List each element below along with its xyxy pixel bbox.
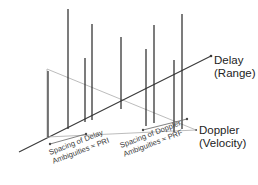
delay-label-line1: Delay xyxy=(214,54,244,66)
ambiguity-diagram: Delay (Range) Doppler (Velocity) Spacing… xyxy=(0,0,258,185)
delay-label-line2: (Range) xyxy=(214,67,256,79)
doppler-label-line1: Doppler xyxy=(199,124,239,136)
doppler-axis-label: Doppler (Velocity) xyxy=(199,124,246,149)
diagram-canvas: Delay (Range) Doppler (Velocity) Spacing… xyxy=(0,0,258,185)
doppler-spacing-annotation: Spacing of Doppler Ambiguities ≈ PRF xyxy=(118,118,185,159)
doppler-label-line2: (Velocity) xyxy=(199,137,246,149)
spike-group xyxy=(48,9,182,137)
delay-axis-label: Delay (Range) xyxy=(214,54,256,79)
